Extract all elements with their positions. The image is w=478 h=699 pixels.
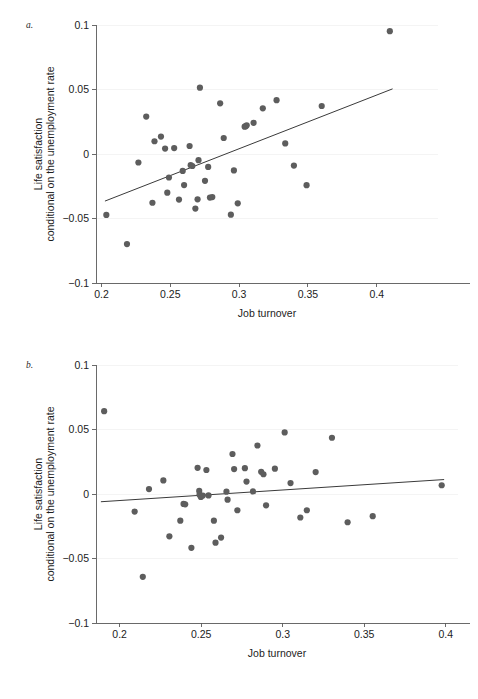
data-point — [319, 103, 325, 109]
data-point — [250, 120, 256, 126]
data-point — [202, 178, 208, 184]
data-point — [242, 465, 248, 471]
data-point — [146, 486, 152, 492]
x-tick-label-3: 0.35 — [298, 288, 319, 300]
x-tick-label-1: 0.25 — [160, 288, 181, 300]
data-point — [194, 196, 200, 202]
data-point — [171, 145, 177, 151]
data-point — [182, 501, 188, 507]
data-point — [260, 105, 266, 111]
data-point — [203, 467, 209, 473]
data-point — [228, 212, 234, 218]
y-tick-label-3: 0.05 — [69, 83, 90, 95]
y-tick-label-0: −0.1 — [68, 277, 89, 289]
data-point — [229, 451, 235, 457]
data-point — [282, 140, 288, 146]
data-point — [313, 469, 319, 475]
data-point — [180, 168, 186, 174]
chart-panel-a: a.−0.1−0.0500.050.10.20.250.30.350.4Job … — [0, 0, 478, 350]
data-point — [149, 200, 155, 206]
regression-fit-line — [101, 480, 444, 502]
y-axis-title-line1: Life satisfaction — [32, 118, 44, 191]
data-point — [103, 212, 109, 218]
data-point — [287, 480, 293, 486]
data-point — [124, 241, 130, 247]
x-tick-label-4: 0.4 — [438, 628, 453, 640]
data-point — [235, 200, 241, 206]
data-point — [166, 533, 172, 539]
y-axis-title-line2: conditional on the unemployment rate — [44, 406, 56, 581]
data-point — [160, 477, 166, 483]
x-axis-title: Job turnover — [238, 307, 297, 319]
data-point — [151, 138, 157, 144]
y-tick-label-2: 0 — [83, 488, 89, 500]
data-point — [140, 574, 146, 580]
x-tick-label-2: 0.3 — [232, 288, 247, 300]
x-tick-label-4: 0.4 — [369, 288, 384, 300]
data-point — [143, 113, 149, 119]
y-tick-label-1: −0.05 — [62, 212, 89, 224]
data-point — [224, 497, 230, 503]
x-tick-label-3: 0.35 — [354, 628, 375, 640]
data-point — [297, 514, 303, 520]
data-point — [101, 408, 107, 414]
y-tick-label-3: 0.05 — [69, 423, 90, 435]
y-tick-label-1: −0.05 — [62, 552, 89, 564]
x-tick-label-0: 0.2 — [94, 288, 109, 300]
data-point — [254, 442, 260, 448]
panel-a-svg: a.−0.1−0.0500.050.10.20.250.30.350.4Job … — [0, 0, 478, 350]
data-point — [194, 465, 200, 471]
data-point — [273, 97, 279, 103]
data-point — [186, 143, 192, 149]
data-point — [212, 540, 218, 546]
data-point — [234, 507, 240, 513]
x-tick-label-0: 0.2 — [112, 628, 127, 640]
data-point — [291, 163, 297, 169]
x-tick-label-2: 0.3 — [275, 628, 290, 640]
data-point — [439, 482, 445, 488]
data-point — [231, 167, 237, 173]
data-point — [132, 508, 138, 514]
data-point — [370, 513, 376, 519]
data-point — [244, 122, 250, 128]
data-point — [188, 545, 194, 551]
data-point — [231, 466, 237, 472]
data-point — [176, 196, 182, 202]
figure-container: a.−0.1−0.0500.050.10.20.250.30.350.4Job … — [0, 0, 478, 699]
data-point — [221, 135, 227, 141]
data-point — [205, 164, 211, 170]
x-tick-label-1: 0.25 — [191, 628, 212, 640]
y-tick-label-4: 0.1 — [74, 19, 89, 31]
data-point — [200, 492, 206, 498]
data-point — [260, 471, 266, 477]
y-tick-label-4: 0.1 — [74, 359, 89, 371]
data-point — [189, 163, 195, 169]
x-axis-title: Job turnover — [248, 647, 307, 659]
data-point — [387, 28, 393, 34]
data-point — [250, 488, 256, 494]
data-point — [282, 429, 288, 435]
data-point — [205, 492, 211, 498]
data-point — [158, 133, 164, 139]
panel-letter: b. — [26, 360, 33, 370]
data-point — [272, 466, 278, 472]
data-point — [162, 145, 168, 151]
data-point — [209, 194, 215, 200]
data-point — [195, 157, 201, 163]
y-tick-label-0: −0.1 — [68, 617, 89, 629]
scatter-points-group — [103, 28, 393, 247]
y-axis-title-line2: conditional on the unemployment rate — [44, 66, 56, 241]
data-point — [166, 174, 172, 180]
data-point — [263, 502, 269, 508]
data-point — [181, 182, 187, 188]
data-point — [303, 182, 309, 188]
data-point — [197, 85, 203, 91]
data-point — [329, 435, 335, 441]
data-point — [223, 489, 229, 495]
data-point — [135, 159, 141, 165]
y-tick-label-2: 0 — [83, 148, 89, 160]
panel-b-svg: b.−0.1−0.0500.050.10.20.250.30.350.4Job … — [0, 340, 478, 699]
data-point — [217, 100, 223, 106]
data-point — [192, 205, 198, 211]
chart-panel-b: b.−0.1−0.0500.050.10.20.250.30.350.4Job … — [0, 340, 478, 699]
